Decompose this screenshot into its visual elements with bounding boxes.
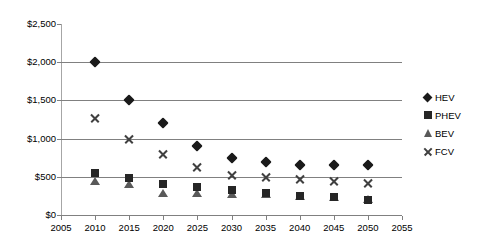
x-axis-tick-label: 2045 [316, 222, 352, 233]
y-axis-tick-label: $1,000 [4, 134, 56, 144]
legend-item-label: HEV [435, 92, 455, 103]
x-axis-tick-mark [95, 216, 96, 220]
data-point-fcv [362, 177, 373, 188]
x-axis-tick-label: 2015 [111, 222, 147, 233]
x-axis-tick-label: 2020 [145, 222, 181, 233]
y-axis-tick-label: $1,500 [4, 95, 56, 105]
x-axis-tick-label: 2010 [77, 222, 113, 233]
data-point-hev [362, 159, 373, 170]
chart-legend: HEVPHEVBEVFCV [421, 88, 479, 160]
plot-area [61, 24, 402, 215]
data-point-hev [124, 95, 135, 106]
data-point-phev [159, 180, 167, 188]
data-point-phev [193, 183, 201, 191]
data-point-bev [90, 177, 100, 185]
data-point-hev [158, 118, 169, 129]
data-point-phev [296, 192, 304, 200]
y-axis-tick-label: $500 [4, 172, 56, 182]
data-point-hev [328, 159, 339, 170]
x-axis-tick-label: 2050 [350, 222, 386, 233]
y-axis-tick-label: $2,000 [4, 57, 56, 67]
x-axis-tick-mark [129, 216, 130, 220]
data-point-phev [228, 186, 236, 194]
data-point-fcv [158, 148, 169, 159]
x-axis-tick-mark [368, 216, 369, 220]
incremental-cost-scatter-chart: $0$500$1,000$1,500$2,000$2,500 200520102… [0, 0, 481, 250]
x-axis-tick-label: 2005 [43, 222, 79, 233]
legend-item-phev[interactable]: PHEV [421, 106, 479, 124]
x-axis-tick-mark [197, 216, 198, 220]
data-point-phev [330, 193, 338, 201]
data-point-fcv [124, 133, 135, 144]
square-marker-icon [421, 109, 434, 121]
data-point-fcv [260, 171, 271, 182]
legend-item-label: FCV [435, 146, 454, 157]
data-point-fcv [294, 174, 305, 185]
x-axis-tick-mark [61, 216, 62, 220]
data-point-phev [125, 174, 133, 182]
legend-item-bev[interactable]: BEV [421, 124, 479, 142]
data-point-hev [294, 159, 305, 170]
legend-item-hev[interactable]: HEV [421, 88, 479, 106]
y-axis-labels: $0$500$1,000$1,500$2,000$2,500 [0, 0, 56, 250]
data-point-hev [260, 156, 271, 167]
x-axis-tick-label: 2040 [282, 222, 318, 233]
data-point-fcv [192, 162, 203, 173]
data-point-bev [158, 189, 168, 197]
triangle-marker-icon [421, 127, 434, 139]
y-axis-tick-label: $2,500 [4, 19, 56, 29]
data-point-hev [226, 152, 237, 163]
legend-item-label: PHEV [435, 110, 461, 121]
x-axis-tick-label: 2030 [214, 222, 250, 233]
x-axis-tick-label: 2035 [248, 222, 284, 233]
data-point-fcv [226, 169, 237, 180]
x-axis-tick-label: 2025 [179, 222, 215, 233]
data-point-phev [91, 169, 99, 177]
diamond-marker-icon [421, 91, 434, 103]
x-axis-tick-label: 2055 [384, 222, 420, 233]
data-point-hev [89, 57, 100, 68]
x-axis-tick-mark [402, 216, 403, 220]
cross-marker-icon [421, 145, 434, 157]
x-axis-tick-mark [300, 216, 301, 220]
legend-item-label: BEV [435, 128, 454, 139]
legend-item-fcv[interactable]: FCV [421, 142, 479, 160]
data-point-phev [262, 189, 270, 197]
x-axis-tick-mark [232, 216, 233, 220]
x-axis-tick-mark [266, 216, 267, 220]
x-axis-tick-mark [163, 216, 164, 220]
data-point-fcv [90, 112, 101, 123]
y-axis-tick-label: $0 [4, 210, 56, 220]
x-axis-tick-mark [334, 216, 335, 220]
data-point-phev [364, 196, 372, 204]
data-point-hev [192, 141, 203, 152]
data-point-fcv [328, 175, 339, 186]
